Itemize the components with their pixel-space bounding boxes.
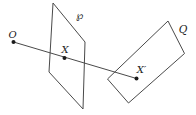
point-x-dot bbox=[63, 56, 67, 60]
plane-q-label: Q bbox=[179, 23, 188, 36]
point-o-label: O bbox=[8, 29, 16, 40]
diagram-canvas: O X X′ ℘ Q bbox=[0, 0, 196, 115]
point-x-prime-label: X′ bbox=[136, 64, 147, 75]
projection-diagram: O X X′ ℘ Q bbox=[0, 0, 196, 115]
plane-q-outline bbox=[108, 21, 185, 103]
plane-p-label: ℘ bbox=[76, 9, 83, 22]
point-x-prime-dot bbox=[135, 77, 139, 81]
projection-ray-line bbox=[14, 42, 137, 79]
point-o-dot bbox=[12, 40, 16, 44]
point-x-label: X bbox=[60, 44, 69, 55]
